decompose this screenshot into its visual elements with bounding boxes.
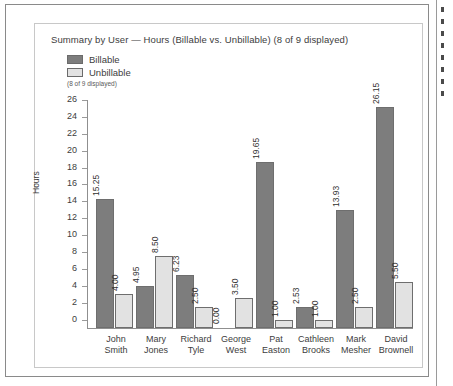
gutter-tick-icon (441, 7, 444, 12)
gutter-tick-icon (441, 67, 444, 72)
plot-wrapper: Hours 26 24 22 20 18 16 14 12 10 8 6 4 2… (35, 24, 424, 369)
bar-value-label: 1.00 (270, 300, 280, 317)
y-tick-label: 16 (67, 178, 77, 188)
gutter-tick-icon (441, 91, 444, 96)
bar-unbillable[interactable]: 4.00 (115, 294, 133, 328)
y-tick-label: 12 (67, 212, 77, 222)
chart-container: Summary by User — Hours (Billable vs. Un… (34, 23, 423, 368)
category-label-line2: Brownell (367, 345, 425, 356)
category-label: David Brownell (367, 334, 425, 356)
bar-unbillable[interactable]: 1.00 (275, 320, 293, 328)
bar-billable[interactable]: 26.15 (376, 107, 394, 328)
bar-value-label: 4.00 (110, 275, 120, 292)
y-tick-label: 20 (67, 145, 77, 155)
y-tick-label: 10 (67, 229, 77, 239)
bar-unbillable[interactable]: 1.00 (315, 320, 333, 328)
bar-unbillable[interactable]: 5.50 (395, 282, 413, 329)
y-tick-label: 6 (72, 263, 77, 273)
bar-value-label: 19.65 (251, 138, 261, 159)
bar-billable[interactable]: 15.25 (96, 199, 114, 328)
y-tick-label: 26 (67, 94, 77, 104)
bar-unbillable[interactable]: 3.50 (235, 298, 253, 328)
bar-value-label: 8.50 (150, 237, 160, 254)
gutter-tick-icon (441, 43, 444, 48)
bar-value-label: 2.50 (190, 287, 200, 304)
report-page: Summary by User — Hours (Billable vs. Un… (5, 4, 429, 377)
y-tick-label: 24 (67, 111, 77, 121)
bar-value-label: 26.15 (371, 83, 381, 104)
gutter-tick-icon (441, 79, 444, 84)
bar-value-label: 5.50 (390, 262, 400, 279)
gutter-tick-icon (441, 55, 444, 60)
y-tick-label: 0 (72, 314, 77, 324)
bar-unbillable[interactable]: 2.50 (355, 307, 373, 328)
y-tick-label: 14 (67, 195, 77, 205)
bar-value-label: 6.23 (171, 256, 181, 273)
y-tick-label: 4 (72, 280, 77, 290)
bar-value-label: 1.00 (310, 300, 320, 317)
y-tick-label: 2 (72, 297, 77, 307)
bar-value-label: 13.93 (331, 186, 341, 207)
bar-value-label: 2.50 (350, 287, 360, 304)
y-tick-label: 18 (67, 162, 77, 172)
bar-value-label: 4.95 (131, 267, 141, 284)
y-axis-ticks: 26 24 22 20 18 16 14 12 10 8 6 4 2 0 (41, 100, 87, 328)
gutter-tick-icon (441, 19, 444, 24)
y-tick-label: 8 (72, 246, 77, 256)
bar-value-label: 0.00 (211, 307, 221, 324)
plot-area: 15.25 4.00 John Smith 4.95 8.50 Mary Jon… (87, 100, 413, 329)
gutter-tick-icon (441, 31, 444, 36)
bar-value-label: 15.25 (91, 175, 101, 196)
bar-billable[interactable]: 13.93 (336, 210, 354, 328)
bar-value-label: 3.50 (230, 279, 240, 296)
bar-billable[interactable]: 4.95 (136, 286, 154, 328)
bar-value-label: 2.53 (291, 287, 301, 304)
category-label-line1: David (367, 334, 425, 345)
right-cutoff-panel (436, 0, 453, 386)
y-tick-label: 22 (67, 128, 77, 138)
y-axis-title: Hours (31, 171, 41, 194)
